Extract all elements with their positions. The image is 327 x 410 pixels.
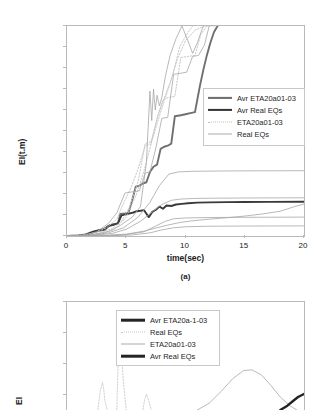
legend-item: Avr ETA20a-1-03	[120, 314, 215, 326]
legend-label: ETA20a01-03	[237, 118, 283, 127]
x-tick-label: 10	[180, 241, 189, 250]
legend-key-icon	[120, 315, 146, 325]
figure-container: EI(t.m) 01000200030004000500060007000800…	[0, 0, 327, 410]
legend-key-icon	[207, 93, 233, 103]
legend-item: Avr Real EQs	[120, 350, 215, 362]
chart-a-legend: Avr ETA20a01-03Avr Real EQsETA20a01-03Re…	[203, 88, 305, 146]
chart-b-y-tick-labels: 20000250003000035000	[0, 290, 62, 410]
x-tick-mark	[185, 235, 186, 238]
x-tick-label: 5	[123, 241, 127, 250]
legend-item: Real EQs	[207, 128, 300, 140]
x-tick-mark	[66, 235, 67, 238]
legend-item: ETA20a01-03	[120, 338, 215, 350]
chart-a-caption: (a)	[66, 272, 305, 281]
legend-label: Real EQs	[237, 130, 269, 139]
legend-label: ETA20a01-03	[150, 340, 196, 349]
x-tick-mark	[125, 235, 126, 238]
chart-a-x-axis-title: time(sec)	[66, 253, 305, 263]
chart-a: EI(t.m) 01000200030004000500060007000800…	[0, 0, 327, 290]
legend-label: Avr Real EQs	[150, 352, 195, 361]
legend-item: ETA20a01-03	[207, 116, 300, 128]
legend-key-icon	[120, 339, 146, 349]
legend-label: Avr ETA20a-1-03	[150, 316, 207, 325]
legend-key-icon	[120, 327, 146, 337]
legend-label: Avr Real EQs	[237, 106, 282, 115]
x-tick-label: 20	[299, 241, 308, 250]
series-line	[143, 394, 151, 410]
legend-label: Avr ETA20a01-03	[237, 94, 296, 103]
x-tick-label: 0	[64, 241, 68, 250]
x-tick-mark	[244, 235, 245, 238]
chart-b: EI 20000250003000035000 Avr ETA20a-1-03R…	[0, 290, 327, 410]
chart-b-legend: Avr ETA20a-1-03Real EQsETA20a01-03Avr Re…	[116, 310, 220, 366]
legend-item: Avr Real EQs	[207, 104, 300, 116]
legend-key-icon	[207, 105, 233, 115]
x-tick-mark	[303, 235, 304, 238]
legend-key-icon	[207, 129, 233, 139]
legend-item: Real EQs	[120, 326, 215, 338]
series-line	[280, 394, 304, 410]
legend-key-icon	[207, 117, 233, 127]
legend-label: Real EQs	[150, 328, 182, 337]
series-line	[197, 370, 297, 410]
legend-item: Avr ETA20a01-03	[207, 92, 300, 104]
series-line	[98, 382, 107, 410]
x-tick-label: 15	[239, 241, 248, 250]
legend-key-icon	[120, 351, 146, 361]
